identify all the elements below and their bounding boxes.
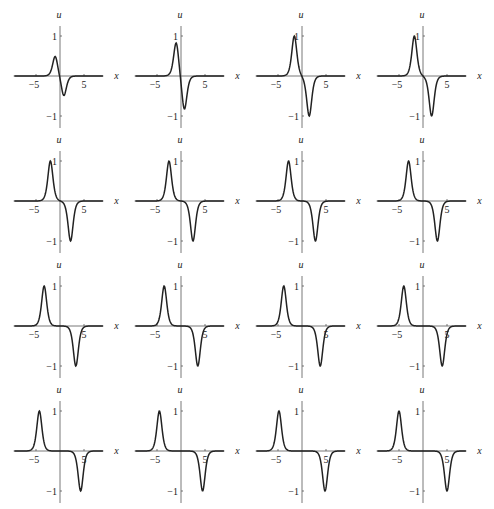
solution-curve [377, 286, 466, 366]
plot-panel-15: −551−1xu [242, 375, 363, 500]
u-tick-label: −1 [46, 486, 57, 497]
solution-curve [135, 286, 224, 366]
plot-panel-9: −551−1xu [0, 250, 121, 375]
plot-svg: −551−1xu [0, 0, 121, 125]
u-tick-label: −1 [288, 111, 299, 122]
u-tick-label: 1 [294, 156, 299, 167]
u-axis-label: u [299, 9, 304, 20]
u-axis-label: u [178, 134, 183, 145]
u-tick-label: 1 [294, 406, 299, 417]
u-tick-label: −1 [288, 486, 299, 497]
x-axis-label: x [113, 320, 119, 331]
x-tick-label: −5 [29, 329, 40, 340]
plot-grid: −551−1xu−551−1xu−551−1xu−551−1xu−551−1xu… [0, 0, 494, 509]
u-tick-label: −1 [409, 361, 420, 372]
plot-svg: −551−1xu [0, 375, 121, 500]
solution-curve [135, 43, 224, 109]
u-tick-label: 1 [173, 156, 178, 167]
x-tick-label: 5 [82, 79, 87, 90]
plot-svg: −551−1xu [363, 375, 484, 500]
plot-svg: −551−1xu [242, 125, 363, 250]
u-tick-label: −1 [46, 361, 57, 372]
u-tick-label: −1 [167, 236, 178, 247]
u-tick-label: 1 [52, 156, 57, 167]
plot-svg: −551−1xu [121, 375, 242, 500]
u-axis-label: u [420, 384, 425, 395]
u-tick-label: −1 [288, 236, 299, 247]
x-tick-label: −5 [392, 329, 403, 340]
x-tick-label: 5 [324, 454, 329, 465]
x-axis-label: x [355, 195, 361, 206]
u-axis-label: u [299, 259, 304, 270]
plot-svg: −551−1xu [121, 125, 242, 250]
solution-curve [377, 161, 466, 241]
u-tick-label: −1 [167, 361, 178, 372]
x-tick-label: −5 [150, 79, 161, 90]
x-tick-label: −5 [150, 204, 161, 215]
u-axis-label: u [420, 259, 425, 270]
u-tick-label: 1 [415, 156, 420, 167]
u-tick-label: −1 [167, 111, 178, 122]
x-tick-label: −5 [29, 454, 40, 465]
x-tick-label: −5 [29, 204, 40, 215]
u-tick-label: 1 [173, 406, 178, 417]
x-tick-label: −5 [271, 79, 282, 90]
x-axis-label: x [476, 320, 482, 331]
x-axis-label: x [113, 70, 119, 81]
x-axis-label: x [234, 70, 240, 81]
u-tick-label: −1 [46, 111, 57, 122]
plot-svg: −551−1xu [363, 0, 484, 125]
plot-panel-13: −551−1xu [0, 375, 121, 500]
plot-panel-6: −551−1xu [121, 125, 242, 250]
u-tick-label: 1 [173, 281, 178, 292]
u-axis-label: u [299, 384, 304, 395]
u-tick-label: −1 [288, 361, 299, 372]
plot-panel-16: −551−1xu [363, 375, 484, 500]
x-tick-label: 5 [82, 204, 87, 215]
x-axis-label: x [113, 445, 119, 456]
x-tick-label: 5 [445, 204, 450, 215]
x-tick-label: −5 [392, 204, 403, 215]
solution-curve [14, 286, 103, 366]
plot-svg: −551−1xu [363, 125, 484, 250]
u-axis-label: u [178, 259, 183, 270]
plot-svg: −551−1xu [242, 375, 363, 500]
u-tick-label: 1 [52, 281, 57, 292]
x-tick-label: −5 [271, 204, 282, 215]
x-tick-label: −5 [150, 329, 161, 340]
plot-svg: −551−1xu [242, 250, 363, 375]
plot-svg: −551−1xu [121, 0, 242, 125]
x-axis-label: x [234, 195, 240, 206]
plot-panel-12: −551−1xu [363, 250, 484, 375]
u-tick-label: 1 [294, 281, 299, 292]
x-axis-label: x [476, 445, 482, 456]
solution-curve [135, 161, 224, 241]
x-tick-label: −5 [150, 454, 161, 465]
x-tick-label: 5 [445, 454, 450, 465]
solution-curve [256, 286, 345, 366]
x-axis-label: x [355, 320, 361, 331]
x-axis-label: x [355, 70, 361, 81]
u-tick-label: −1 [409, 236, 420, 247]
plot-panel-2: −551−1xu [121, 0, 242, 125]
u-tick-label: 1 [173, 31, 178, 42]
plot-svg: −551−1xu [121, 250, 242, 375]
plot-svg: −551−1xu [0, 250, 121, 375]
plot-svg: −551−1xu [363, 250, 484, 375]
x-tick-label: 5 [324, 204, 329, 215]
x-axis-label: x [476, 70, 482, 81]
u-tick-label: 1 [52, 31, 57, 42]
x-tick-label: −5 [271, 454, 282, 465]
x-tick-label: 5 [203, 79, 208, 90]
plot-panel-8: −551−1xu [363, 125, 484, 250]
x-tick-label: −5 [29, 79, 40, 90]
u-axis-label: u [57, 259, 62, 270]
u-tick-label: −1 [46, 236, 57, 247]
u-tick-label: −1 [409, 486, 420, 497]
u-tick-label: 1 [415, 406, 420, 417]
plot-panel-7: −551−1xu [242, 125, 363, 250]
x-axis-label: x [234, 320, 240, 331]
plot-panel-3: −551−1xu [242, 0, 363, 125]
x-tick-label: −5 [271, 329, 282, 340]
x-tick-label: 5 [203, 204, 208, 215]
